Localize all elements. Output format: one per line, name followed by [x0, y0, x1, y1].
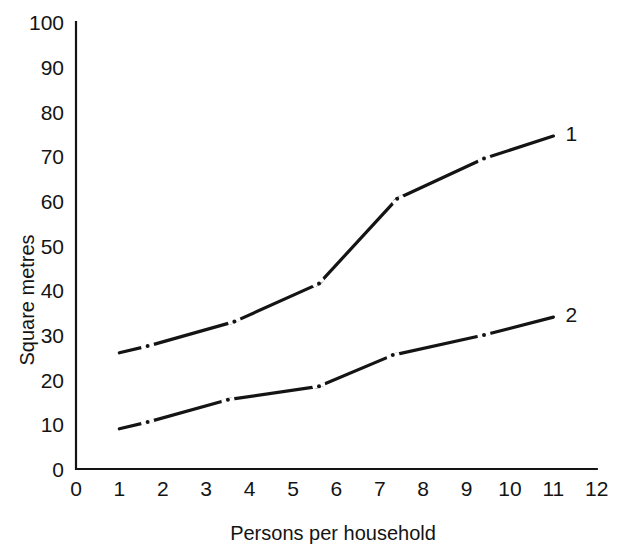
axis-lines — [76, 22, 597, 469]
data-point-marker — [146, 420, 150, 424]
x-tick-label-5: 5 — [287, 477, 299, 500]
x-tick-label-0: 0 — [70, 477, 82, 500]
data-series — [119, 136, 553, 429]
data-point-marker — [395, 197, 399, 201]
y-tick-label-100: 100 — [29, 11, 64, 34]
data-point-marker — [482, 157, 486, 161]
y-tick-label-30: 30 — [41, 324, 64, 347]
y-axis-title: Square metres — [16, 234, 38, 365]
y-tick-label-50: 50 — [41, 235, 64, 258]
x-tick-label-9: 9 — [461, 477, 473, 500]
x-tick-label-2: 2 — [157, 477, 169, 500]
data-point-marker — [226, 398, 230, 402]
y-tick-label-90: 90 — [41, 56, 64, 79]
data-point-marker — [317, 384, 321, 388]
chart-container: 0102030405060708090100 0123456789101112 … — [0, 0, 630, 550]
data-point-marker — [232, 320, 236, 324]
y-tick-label-70: 70 — [41, 145, 64, 168]
data-point-marker — [317, 282, 321, 286]
axes — [76, 22, 597, 469]
data-point-marker — [391, 353, 395, 357]
x-tick-label-3: 3 — [200, 477, 212, 500]
x-tick-label-4: 4 — [244, 477, 256, 500]
x-tick-label-6: 6 — [331, 477, 343, 500]
x-tick-label-12: 12 — [585, 477, 608, 500]
y-tick-label-40: 40 — [41, 279, 64, 302]
data-point-marker — [482, 333, 486, 337]
x-tick-label-10: 10 — [498, 477, 521, 500]
data-point-marker — [146, 344, 150, 348]
series-line-1 — [119, 136, 553, 353]
x-tick-label-8: 8 — [417, 477, 429, 500]
y-tick-label-10: 10 — [41, 413, 64, 436]
x-axis-ticks: 0123456789101112 — [70, 477, 608, 500]
x-tick-label-1: 1 — [114, 477, 126, 500]
y-tick-label-0: 0 — [52, 458, 64, 481]
x-tick-label-7: 7 — [374, 477, 386, 500]
series-end-labels: 12 — [565, 122, 577, 326]
x-tick-label-11: 11 — [542, 477, 564, 500]
y-tick-label-20: 20 — [41, 369, 64, 392]
y-tick-label-80: 80 — [41, 101, 64, 124]
series-label-2: 2 — [565, 303, 577, 326]
y-tick-label-60: 60 — [41, 190, 64, 213]
x-axis-title: Persons per household — [230, 522, 436, 544]
series-label-1: 1 — [565, 122, 577, 145]
line-chart: 0102030405060708090100 0123456789101112 … — [0, 0, 630, 550]
